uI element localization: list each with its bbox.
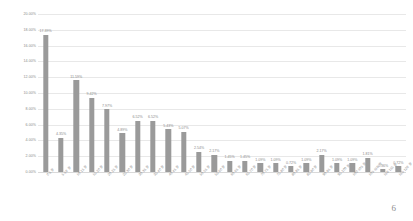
- bar[interactable]: [166, 129, 171, 172]
- bar[interactable]: [58, 138, 63, 172]
- bar-slot: 1.45%: [222, 14, 237, 172]
- bar-value-label: 11.59%: [70, 75, 82, 79]
- y-axis-tick-label: 2.00%: [8, 154, 36, 158]
- bar-value-label: 4.35%: [56, 132, 66, 136]
- y-axis-tick-label: 18.00%: [8, 28, 36, 32]
- bar-value-label: 2.17%: [317, 149, 327, 153]
- bar-value-label: 2.54%: [194, 146, 204, 150]
- bar-slot: 9.42%: [84, 14, 99, 172]
- y-axis-tick-label: 16.00%: [8, 44, 36, 48]
- bar-value-label: 1.45%: [240, 155, 250, 159]
- bar-value-label: 7.97%: [102, 104, 112, 108]
- bar-value-label: 6.52%: [148, 115, 158, 119]
- bar-value-label: 17.39%: [40, 29, 52, 33]
- bar[interactable]: [104, 109, 109, 172]
- bar[interactable]: [212, 155, 217, 172]
- bar-slot: 2.17%: [207, 14, 222, 172]
- bar-value-label: 1.09%: [332, 158, 342, 162]
- bar-slot: 1.81%: [360, 14, 375, 172]
- bar-slot: 0.36%: [375, 14, 390, 172]
- bar-value-label: 5.07%: [179, 126, 189, 130]
- bar-value-label: 1.09%: [271, 158, 281, 162]
- bar-slot: 0.72%: [283, 14, 298, 172]
- bar[interactable]: [135, 121, 140, 173]
- bar-slot: 2.54%: [191, 14, 206, 172]
- bar-slot: 1.09%: [253, 14, 268, 172]
- bar-value-label: 2.17%: [209, 149, 219, 153]
- bar-value-label: 1.09%: [301, 158, 311, 162]
- y-axis-tick-label: 14.00%: [8, 59, 36, 63]
- bar-value-label: 6.52%: [133, 115, 143, 119]
- bar-slot: 5.43%: [161, 14, 176, 172]
- bar-slot: 1.45%: [237, 14, 252, 172]
- bar-value-label: 5.43%: [163, 124, 173, 128]
- bar[interactable]: [150, 121, 155, 173]
- bar[interactable]: [74, 80, 79, 172]
- bar-value-label: 1.09%: [347, 158, 357, 162]
- bar-value-label: 1.81%: [363, 152, 373, 156]
- bar[interactable]: [196, 152, 201, 172]
- chart-page: 0.00%2.00%4.00%6.00%8.00%10.00%12.00%14.…: [0, 0, 413, 221]
- y-axis-tick-label: 12.00%: [8, 75, 36, 79]
- bar-slot: 1.09%: [268, 14, 283, 172]
- y-axis-tick-label: 6.00%: [8, 123, 36, 127]
- bar-value-label: 1.09%: [255, 158, 265, 162]
- bar-slot: 11.59%: [69, 14, 84, 172]
- y-axis-tick-label: 0.00%: [8, 170, 36, 174]
- bar[interactable]: [227, 161, 232, 172]
- y-axis-tick-label: 4.00%: [8, 138, 36, 142]
- y-axis-tick-label: 20.00%: [8, 12, 36, 16]
- bar-slot: 1.09%: [345, 14, 360, 172]
- bar-slot: 6.52%: [130, 14, 145, 172]
- y-axis-tick-label: 8.00%: [8, 107, 36, 111]
- bar-value-label: 0.72%: [286, 161, 296, 165]
- bar-value-label: 1.45%: [225, 155, 235, 159]
- bar-slot: 2.17%: [314, 14, 329, 172]
- bar[interactable]: [120, 133, 125, 172]
- x-axis: 0-5 岁5-10 岁10-15 岁15-20 岁20-25 岁25-30 岁3…: [38, 174, 406, 210]
- bar-slot: 7.97%: [99, 14, 114, 172]
- y-axis: 0.00%2.00%4.00%6.00%8.00%10.00%12.00%14.…: [8, 14, 36, 172]
- bar-slot: 4.89%: [115, 14, 130, 172]
- bar-slot: 0.72%: [391, 14, 406, 172]
- bar-slot: 1.09%: [329, 14, 344, 172]
- bar-value-label: 4.89%: [117, 128, 127, 132]
- page-number: 6: [392, 203, 397, 213]
- y-axis-tick-label: 10.00%: [8, 91, 36, 95]
- bar[interactable]: [181, 132, 186, 172]
- bar-slot: 4.35%: [53, 14, 68, 172]
- bar-slot: 5.07%: [176, 14, 191, 172]
- bar-value-label: 9.42%: [87, 92, 97, 96]
- chart-plot-area: 17.39%4.35%11.59%9.42%7.97%4.89%6.52%6.5…: [38, 14, 406, 172]
- bar-chart: 0.00%2.00%4.00%6.00%8.00%10.00%12.00%14.…: [0, 0, 413, 221]
- bar-slot: 1.09%: [299, 14, 314, 172]
- bar[interactable]: [319, 155, 324, 172]
- bar[interactable]: [89, 98, 94, 172]
- bar-slot: 6.52%: [145, 14, 160, 172]
- bar-slot: 17.39%: [38, 14, 53, 172]
- bar[interactable]: [43, 35, 48, 172]
